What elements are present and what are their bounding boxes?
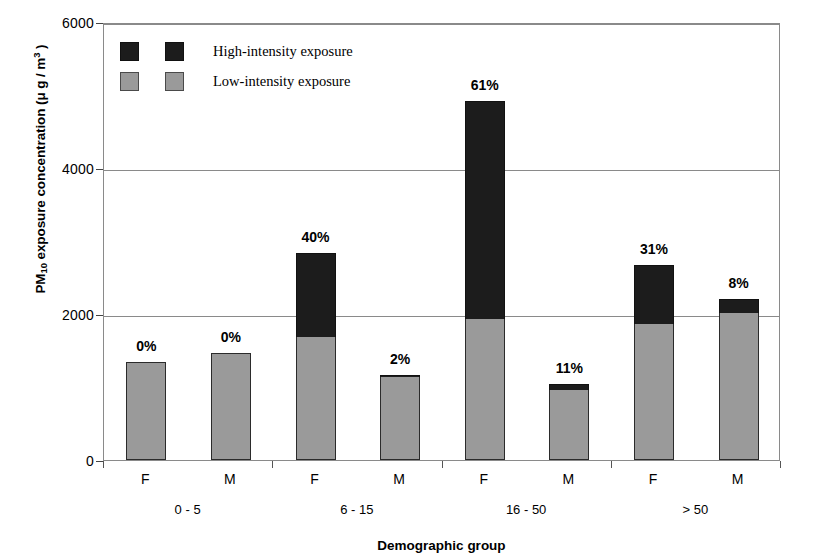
y-axis-title: PM10 exposure concentration (μ g / m3 ): [31, 4, 49, 334]
y-axis-title-close: ): [33, 44, 48, 52]
legend-entry[interactable]: Low-intensity exposure: [118, 66, 418, 96]
y-axis-title-prefix: PM: [33, 273, 48, 293]
bar-segment-low-intensity[interactable]: [211, 353, 251, 460]
x-axis-sex-label: F: [442, 471, 527, 487]
x-axis-group-label: 0 - 5: [103, 502, 272, 517]
bar-slot: 31%: [612, 24, 697, 460]
x-axis-group-label: 6 - 15: [272, 502, 441, 517]
y-axis-title-middle: exposure concentration (: [33, 101, 48, 264]
chart-figure: 0200040006000 PM10 exposure concentratio…: [0, 0, 816, 559]
chart-legend: High-intensity exposureLow-intensity exp…: [118, 36, 418, 96]
bar-stack[interactable]: [634, 265, 674, 460]
x-axis-sex-label: M: [188, 471, 273, 487]
bar-segment-low-intensity[interactable]: [465, 319, 505, 460]
bar-stack[interactable]: [465, 101, 505, 460]
bar-percentage-label: 31%: [640, 241, 668, 257]
x-tick-mark: [272, 461, 273, 468]
bar-slot: 11%: [527, 24, 612, 460]
legend-swatch-icon: [120, 42, 139, 61]
bar-segment-low-intensity[interactable]: [126, 362, 166, 460]
bar-segment-low-intensity[interactable]: [719, 313, 759, 460]
bar-segment-high-intensity[interactable]: [719, 299, 759, 312]
x-tick-mark: [442, 461, 443, 468]
x-axis: FMFMFMFM 0 - 56 - 1516 - 50> 50 Demograp…: [103, 461, 780, 556]
x-axis-sex-label: F: [611, 471, 696, 487]
x-axis-group-label: > 50: [611, 502, 780, 517]
bar-stack[interactable]: [380, 375, 420, 460]
y-axis-title-subscript: 10: [38, 263, 49, 273]
bar-percentage-label: 40%: [302, 229, 330, 245]
x-tick-mark: [780, 461, 781, 468]
bar-percentage-label: 8%: [729, 275, 749, 291]
legend-entry[interactable]: High-intensity exposure: [118, 36, 418, 66]
bar-segment-high-intensity[interactable]: [465, 101, 505, 319]
legend-swatch-icon: [165, 42, 184, 61]
x-axis-title: Demographic group: [103, 538, 780, 553]
x-tick-mark: [611, 461, 612, 468]
legend-label: Low-intensity exposure: [213, 73, 350, 90]
x-axis-sex-label: M: [526, 471, 611, 487]
bar-percentage-label: 11%: [556, 360, 583, 376]
bar-percentage-label: 61%: [471, 77, 499, 93]
y-axis-tick-marks: [0, 23, 110, 461]
bar-slot: 61%: [443, 24, 528, 460]
x-axis-group-label: 16 - 50: [442, 502, 611, 517]
bar-percentage-label: 0%: [221, 329, 241, 345]
bar-percentage-label: 2%: [390, 351, 410, 367]
legend-label: High-intensity exposure: [213, 43, 353, 60]
bar-stack[interactable]: [549, 384, 589, 460]
bar-percentage-label: 0%: [136, 338, 156, 354]
bar-stack[interactable]: [296, 253, 336, 460]
x-axis-sex-label: M: [357, 471, 442, 487]
bar-segment-low-intensity[interactable]: [296, 337, 336, 460]
y-axis-title-unit: μ g / m: [33, 58, 48, 101]
bar-stack[interactable]: [719, 299, 759, 460]
legend-swatch-icon: [120, 72, 139, 91]
x-tick-mark: [103, 461, 104, 468]
bar-segment-high-intensity[interactable]: [296, 253, 336, 336]
bar-segment-low-intensity[interactable]: [634, 324, 674, 460]
bar-slot: 8%: [696, 24, 781, 460]
bar-segment-low-intensity[interactable]: [380, 377, 420, 460]
bar-stack[interactable]: [211, 353, 251, 460]
legend-swatch-icon: [165, 72, 184, 91]
y-axis-title-superscript: 3: [31, 53, 42, 58]
x-axis-sex-label: M: [695, 471, 780, 487]
bar-stack[interactable]: [126, 362, 166, 460]
x-axis-sex-label: F: [103, 471, 188, 487]
bar-segment-high-intensity[interactable]: [634, 265, 674, 324]
x-axis-sex-label: F: [272, 471, 357, 487]
bar-segment-low-intensity[interactable]: [549, 390, 589, 460]
